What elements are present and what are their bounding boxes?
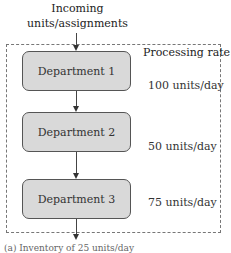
flow-line-2-3: [76, 152, 77, 174]
output-line: [76, 219, 77, 235]
department-2-box: Department 2: [22, 112, 131, 152]
department-1-rate: 100 units/day: [148, 79, 224, 92]
output-arrow-icon: [73, 234, 79, 240]
input-label-line1: Incoming: [0, 2, 155, 16]
department-3-rate: 75 units/day: [148, 196, 217, 209]
processing-rate-header: Processing rate: [143, 46, 230, 59]
input-label-line2: units/assignments: [0, 17, 155, 31]
caption: (a) Inventory of 25 units/day: [4, 243, 134, 253]
flow-line-1-2: [76, 91, 77, 107]
department-1-box: Department 1: [22, 51, 131, 91]
department-2-rate: 50 units/day: [148, 140, 217, 153]
department-3-box: Department 3: [22, 179, 131, 219]
